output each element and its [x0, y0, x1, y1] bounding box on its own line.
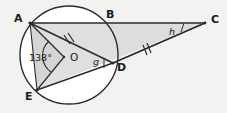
angle-label-138: 138° — [29, 53, 52, 63]
vertex-label-A: A — [14, 13, 23, 24]
vertex-label-D: D — [117, 62, 126, 73]
vertex-dot-A — [28, 21, 31, 24]
angle-label-h: h — [169, 27, 175, 37]
vertex-label-C: C — [211, 14, 219, 25]
center-label-O: O — [70, 52, 78, 63]
vertex-label-E: E — [25, 91, 33, 102]
vertex-dot-O — [63, 56, 65, 58]
angle-label-g: g — [93, 57, 99, 67]
vertex-label-B: B — [106, 9, 114, 20]
geometry-figure: A B C D E O 138° g h — [0, 0, 227, 113]
vertex-dot-D — [111, 61, 114, 64]
vertex-dot-C — [204, 22, 207, 25]
vertex-dot-E — [35, 88, 38, 91]
